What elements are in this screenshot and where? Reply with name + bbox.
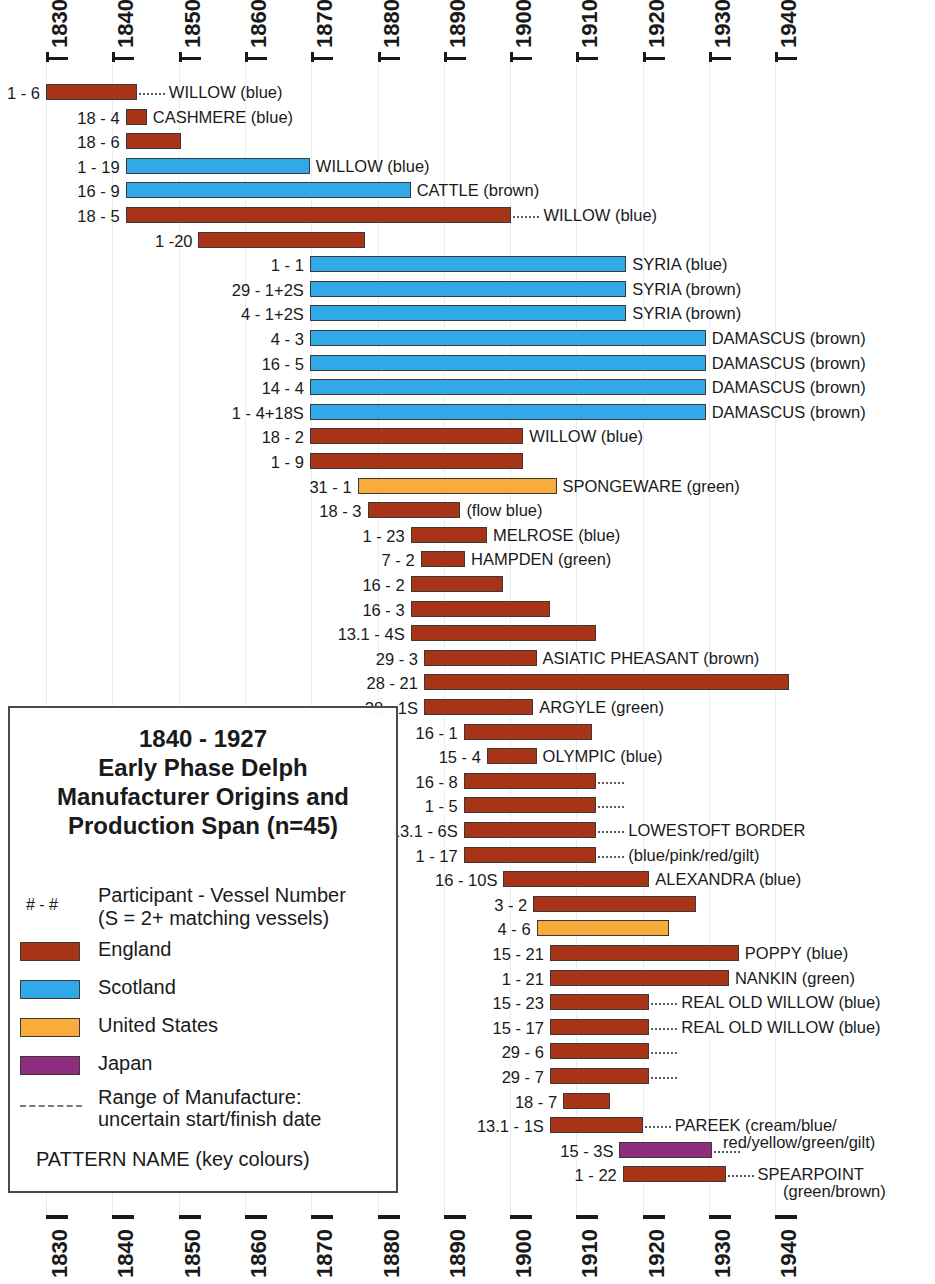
bar-scotland[interactable] bbox=[310, 404, 706, 420]
bar-row-label: 15 - 3S bbox=[413, 1143, 613, 1159]
bar-row: 29 - 3ASIATIC PHEASANT (brown) bbox=[0, 650, 935, 674]
bar-scotland[interactable] bbox=[126, 182, 411, 198]
bar-scotland[interactable] bbox=[310, 305, 626, 321]
legend-dashed-line-key bbox=[20, 1105, 82, 1107]
bar-row-label: 16 - 9 bbox=[0, 183, 120, 199]
tick-top-base-1920 bbox=[643, 57, 665, 60]
legend-swatch-japan[interactable] bbox=[20, 1056, 80, 1075]
bar-row-label: 18 - 5 bbox=[0, 208, 120, 224]
bar-row: 1 - 6WILLOW (blue) bbox=[0, 84, 935, 108]
bar-england[interactable] bbox=[550, 1019, 649, 1035]
bar-england[interactable] bbox=[533, 896, 695, 912]
uncertain-end-dotted-line bbox=[598, 806, 624, 810]
bar-england[interactable] bbox=[411, 576, 504, 592]
axis-label-top-1840: 1840 bbox=[113, 0, 139, 48]
pattern-name: DAMASCUS (brown) bbox=[712, 404, 866, 421]
bar-england[interactable] bbox=[411, 625, 597, 641]
tick-top-base-1940 bbox=[775, 57, 797, 60]
bar-england[interactable] bbox=[550, 994, 649, 1010]
uncertain-end-dotted-line bbox=[728, 1175, 754, 1179]
bar-scotland[interactable] bbox=[310, 281, 626, 297]
pattern-name: SYRIA (blue) bbox=[632, 256, 727, 273]
axis-label-bottom-1930: 1930 bbox=[710, 1229, 736, 1278]
bar-england[interactable] bbox=[487, 748, 537, 764]
bar-scotland[interactable] bbox=[126, 158, 310, 174]
bar-scotland[interactable] bbox=[310, 355, 706, 371]
bar-england[interactable] bbox=[563, 1093, 609, 1109]
bar-row: 31 - 1SPONGEWARE (green) bbox=[0, 478, 935, 502]
bar-england[interactable] bbox=[424, 674, 789, 690]
bar-england[interactable] bbox=[310, 453, 523, 469]
bar-england[interactable] bbox=[623, 1166, 726, 1182]
legend-swatch-united-states[interactable] bbox=[20, 1018, 80, 1037]
bar-england[interactable] bbox=[368, 502, 461, 518]
bar-row-label: 1 - 23 bbox=[205, 528, 405, 544]
pattern-name-pareek-line-2: red/yellow/green/gilt) bbox=[723, 1134, 875, 1151]
bar-england[interactable] bbox=[411, 527, 487, 543]
pattern-name: SYRIA (brown) bbox=[632, 281, 741, 298]
bar-england[interactable] bbox=[550, 970, 729, 986]
pattern-name: WILLOW (blue) bbox=[529, 428, 643, 445]
pattern-name: MELROSE (blue) bbox=[493, 527, 620, 544]
axis-label-bottom-1880: 1880 bbox=[379, 1229, 405, 1278]
bar-row: 7 - 2HAMPDEN (green) bbox=[0, 551, 935, 575]
pattern-name: ASIATIC PHEASANT (brown) bbox=[543, 650, 760, 667]
bar-england[interactable] bbox=[198, 232, 364, 248]
tick-bottom-1870 bbox=[311, 1215, 333, 1219]
bar-row-label: 29 - 1+2S bbox=[104, 282, 304, 298]
bar-england[interactable] bbox=[503, 871, 649, 887]
bar-england[interactable] bbox=[126, 109, 147, 125]
bar-row-label: 14 - 4 bbox=[104, 380, 304, 396]
bar-england[interactable] bbox=[550, 945, 739, 961]
bar-scotland[interactable] bbox=[310, 330, 706, 346]
legend-swatch-england[interactable] bbox=[20, 942, 80, 961]
bar-row-label: 18 - 4 bbox=[0, 110, 120, 126]
axis-label-bottom-1860: 1860 bbox=[246, 1229, 272, 1278]
bar-england[interactable] bbox=[550, 1117, 643, 1133]
bar-england[interactable] bbox=[424, 699, 533, 715]
bar-england[interactable] bbox=[411, 601, 550, 617]
axis-label-top-1940: 1940 bbox=[776, 0, 802, 48]
uncertain-end-dotted-line bbox=[645, 1126, 671, 1130]
gantt-chart: 1830184018501860187018801890190019101920… bbox=[0, 0, 935, 1284]
legend-swatch-scotland[interactable] bbox=[20, 980, 80, 999]
uncertain-end-dotted-line bbox=[598, 856, 624, 860]
tick-bottom-1880 bbox=[378, 1215, 400, 1219]
legend-participant-line-2: (S = 2+ matching vessels) bbox=[98, 907, 329, 930]
bar-row-label: 1 - 19 bbox=[0, 159, 120, 175]
bar-england[interactable] bbox=[464, 847, 597, 863]
uncertain-end-dotted-line bbox=[651, 1077, 677, 1081]
tick-bottom-1900 bbox=[510, 1215, 532, 1219]
bar-row: 18 - 2WILLOW (blue) bbox=[0, 428, 935, 452]
bar-scotland[interactable] bbox=[310, 379, 706, 395]
bar-england[interactable] bbox=[464, 773, 597, 789]
bar-england[interactable] bbox=[464, 797, 597, 813]
bar-england[interactable] bbox=[126, 207, 512, 223]
bar-england[interactable] bbox=[550, 1043, 649, 1059]
bar-england[interactable] bbox=[126, 133, 182, 149]
tick-bottom-1920 bbox=[643, 1215, 665, 1219]
bar-united-states[interactable] bbox=[358, 478, 557, 494]
axis-label-bottom-1940: 1940 bbox=[776, 1229, 802, 1278]
tick-top-base-1870 bbox=[311, 57, 333, 60]
bar-england[interactable] bbox=[550, 1068, 649, 1084]
bar-england[interactable] bbox=[46, 84, 137, 100]
bar-row: 1 - 19WILLOW (blue) bbox=[0, 158, 935, 182]
bar-row: 29 - 1+2SSYRIA (brown) bbox=[0, 281, 935, 305]
bar-row: 1 -20 bbox=[0, 232, 935, 256]
axis-label-top-1850: 1850 bbox=[180, 0, 206, 48]
uncertain-end-dotted-line bbox=[598, 831, 624, 835]
bar-scotland[interactable] bbox=[310, 256, 626, 272]
uncertain-end-dotted-line bbox=[513, 216, 539, 220]
pattern-name: ALEXANDRA (blue) bbox=[655, 871, 801, 888]
bar-row-label: 7 - 2 bbox=[215, 552, 415, 568]
bar-england[interactable] bbox=[424, 650, 537, 666]
tick-top-base-1930 bbox=[709, 57, 731, 60]
axis-label-top-1860: 1860 bbox=[246, 0, 272, 48]
bar-england[interactable] bbox=[310, 428, 523, 444]
bar-japan[interactable] bbox=[619, 1142, 712, 1158]
bar-england[interactable] bbox=[421, 551, 465, 567]
bar-united-states[interactable] bbox=[537, 920, 670, 936]
bar-england[interactable] bbox=[464, 724, 593, 740]
bar-england[interactable] bbox=[464, 822, 597, 838]
